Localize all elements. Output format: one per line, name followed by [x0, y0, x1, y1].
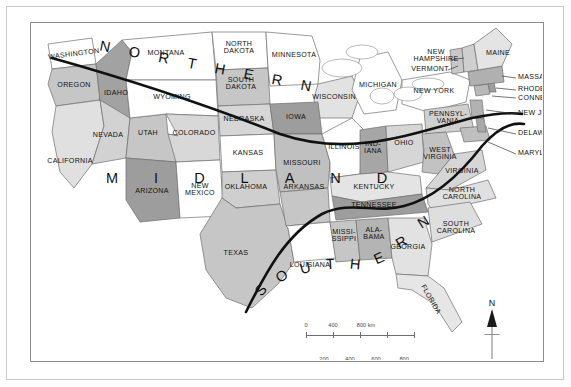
state-kansas [220, 134, 276, 172]
state-arizona [126, 158, 180, 222]
state-vermont [450, 48, 464, 74]
region-label-midland: MIDLAND [106, 170, 387, 186]
north-arrow-crossbar [485, 334, 500, 335]
state-maine [474, 28, 512, 70]
state-california [52, 100, 104, 188]
north-label: N [489, 298, 496, 308]
scale-bar: 0 400 800 km 200 400 600 800 miles [300, 322, 425, 356]
map-page: NORTHERN MIDLAND S O U T H E R N WASHING… [0, 0, 571, 387]
scale-miles-row: 200 400 600 800 miles [300, 339, 425, 350]
north-arrow: N [479, 298, 505, 360]
state-indiana [360, 126, 388, 174]
state-delaware [476, 118, 486, 132]
state-iowa [270, 102, 322, 134]
state-colorado [166, 114, 220, 162]
us-dialect-map: NORTHERN MIDLAND S O U T H E R N WASHING… [30, 22, 542, 360]
state-southcarolina [428, 202, 482, 242]
state-arkansas [280, 188, 330, 226]
state-wisconsin [314, 76, 360, 118]
state-connecticut [474, 84, 490, 96]
state-michigan [352, 52, 402, 114]
state-wyoming [126, 80, 218, 118]
scale-km-row: 0 400 800 km [300, 322, 425, 333]
north-arrow-head [487, 309, 497, 327]
